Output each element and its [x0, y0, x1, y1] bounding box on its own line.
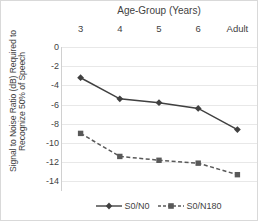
y-tick-label: -14 — [39, 176, 59, 186]
chart-legend: S0/N0 S0/N180 — [61, 198, 257, 214]
legend-swatch-dashed-square-icon — [158, 201, 184, 211]
y-tick-label: 0 — [39, 42, 59, 52]
plot-area — [61, 47, 257, 191]
data-point-marker — [117, 154, 122, 159]
data-point-marker — [195, 105, 202, 112]
y-tick-label: -6 — [39, 100, 59, 110]
data-point-marker — [116, 95, 123, 102]
y-tick-label: -8 — [39, 119, 59, 129]
data-point-marker — [77, 74, 84, 81]
y-axis-title-line-2: Recognize 50% of Speech — [18, 52, 27, 151]
legend-item-s0n180: S0/N180 — [158, 201, 221, 211]
chart-figure: Signal to Noise Ratio (dB) Required to R… — [0, 0, 258, 221]
data-point-marker — [78, 131, 83, 136]
y-axis-title: Signal to Noise Ratio (dB) Required to R… — [1, 1, 35, 201]
y-tick-label: -2 — [39, 61, 59, 71]
y-axis-tick-labels: 0-2-4-6-8-10-12-14 — [35, 1, 59, 221]
data-point-marker — [235, 172, 240, 177]
series-canvas — [61, 47, 257, 191]
y-tick-label: -10 — [39, 138, 59, 148]
data-point-marker — [156, 99, 163, 106]
x-tick-label: 3 — [78, 23, 83, 34]
chart-title: Age-Group (Years) — [61, 5, 257, 16]
x-tick-label: 4 — [117, 23, 122, 34]
legend-label-s0n180: S0/N180 — [186, 201, 221, 211]
series-line-s0-n180 — [81, 133, 238, 174]
y-tick-label: -4 — [39, 80, 59, 90]
x-axis-tick-labels: 3456Adult — [61, 23, 257, 39]
legend-swatch-solid-diamond-icon — [96, 201, 122, 211]
legend-label-s0n0: S0/N0 — [124, 201, 149, 211]
x-tick-label: 5 — [156, 23, 161, 34]
y-tick-label: -12 — [39, 157, 59, 167]
legend-item-s0n0: S0/N0 — [96, 201, 149, 211]
data-point-marker — [156, 158, 161, 163]
x-tick-label: Adult — [227, 23, 249, 34]
data-point-marker — [234, 126, 241, 133]
x-tick-label: 6 — [196, 23, 201, 34]
data-point-marker — [196, 160, 201, 165]
